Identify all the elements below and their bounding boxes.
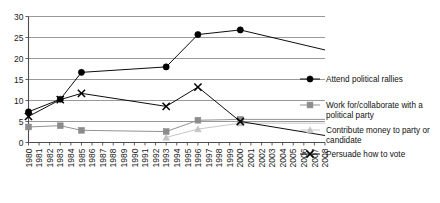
x-axis-tick-label: 2000 [235,148,245,167]
legend-label: Contribute money to party or [326,126,430,135]
x-axis-tick-label: 2002 [257,148,267,167]
series-line [29,87,241,121]
x-axis-tick-label: 2004 [278,148,288,167]
series-0 [25,27,325,115]
x-axis-tick-label: 1982 [45,148,55,167]
x-axis-tick-label: 1993 [161,148,171,167]
x-axis-tick-label: 2005 [288,148,298,167]
x-axis-tick-label: 1985 [77,148,87,167]
x-axis-tick-label: 1984 [66,148,76,167]
legend-label: Attend political rallies [326,75,403,84]
legend-label: candidate [326,136,362,145]
x-axis-labels-group: 1980198119821983198419851986198719881989… [24,148,331,167]
y-axis-labels-group: 051015202530 [14,12,24,148]
data-point-marker [307,102,313,108]
data-point-marker [195,117,201,123]
data-point-marker [194,83,201,90]
data-point-marker [26,124,32,130]
x-axis-tick-label: 1987 [98,148,108,167]
legend-label: political party [326,111,375,120]
data-point-marker [307,76,313,82]
x-axis-tick-label: 1995 [183,148,193,167]
x-axis-tick-label: 2003 [267,148,277,167]
x-axis-tick-label: 1996 [193,148,203,167]
legend-label: Persuade how to vote [326,150,406,159]
y-axis-tick-label: 5 [19,117,24,127]
x-axis-tick-label: 1992 [151,148,161,167]
x-axis-tick-label: 1986 [87,148,97,167]
axis-lines-group [26,17,326,146]
y-axis-tick-label: 20 [14,54,24,64]
x-axis-tick-label: 2001 [246,148,256,167]
y-axis-tick-label: 15 [14,75,24,85]
data-point-marker [163,64,169,70]
data-point-marker [57,123,63,129]
series-line-tail [240,30,325,50]
legend-item-1[interactable]: Work for/collaborate with apolitical par… [300,101,423,120]
x-axis-tick-label: 1983 [55,148,65,167]
data-point-marker [195,31,201,37]
x-axis-tick-label: 1999 [225,148,235,167]
line-chart: 051015202530 198019811982198319841985198… [0,0,440,203]
x-axis-tick-label: 1991 [140,148,150,167]
x-axis-tick-label: 1998 [214,148,224,167]
series-line [166,123,240,137]
chart-container: 051015202530 198019811982198319841985198… [0,0,440,203]
data-point-marker [78,69,84,75]
y-axis-tick-label: 0 [19,138,24,148]
x-axis-tick-label: 2007 [310,148,320,167]
x-axis-tick-label: 1981 [34,148,44,167]
y-axis-tick-label: 25 [14,33,24,43]
x-axis-tick-label: 1988 [108,148,118,167]
x-axis-tick-label: 1994 [172,148,182,167]
x-axis-tick-label: 1980 [24,148,34,167]
series-1 [26,117,325,135]
legend: Attend political ralliesWork for/collabo… [300,75,430,159]
series-group [25,27,325,140]
y-axis-tick-label: 10 [14,96,24,106]
data-point-marker [79,127,85,133]
x-axis-tick-label: 1990 [130,148,140,167]
y-axis-tick-label: 30 [14,12,24,22]
x-axis-tick-label: 1989 [119,148,129,167]
legend-label: Work for/collaborate with a [326,101,423,110]
data-point-marker [237,27,243,33]
x-axis-tick-label: 1997 [204,148,214,167]
